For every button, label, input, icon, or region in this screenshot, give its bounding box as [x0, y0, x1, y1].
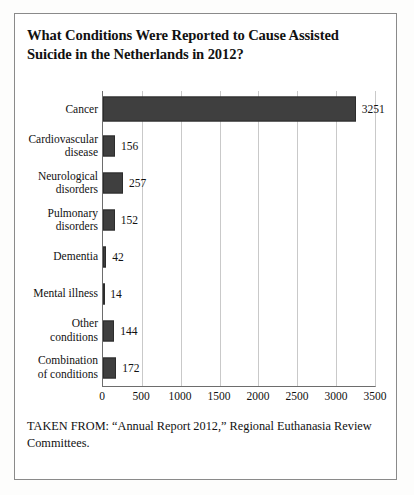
category-label: Neurologicaldisorders	[38, 170, 98, 197]
figure-page: What Conditions Were Reported to Cause A…	[0, 0, 414, 495]
bar[interactable]	[103, 173, 123, 194]
category-label-row: Neurologicaldisorders	[15, 165, 98, 202]
bar-row: 14	[103, 275, 375, 312]
category-label-row: Dementia	[15, 239, 98, 276]
figure-frame: What Conditions Were Reported to Cause A…	[14, 13, 397, 480]
bar[interactable]	[103, 320, 114, 341]
bar-value-label: 3251	[356, 103, 385, 115]
bar-chart: CancerCardiovasculardiseaseNeurologicald…	[15, 89, 396, 339]
bar[interactable]	[103, 136, 115, 157]
x-tick-label: 2000	[247, 390, 270, 402]
category-label-row: Combinationof conditions	[15, 349, 98, 386]
bar[interactable]	[103, 357, 116, 378]
category-axis-labels: CancerCardiovasculardiseaseNeurologicald…	[15, 91, 98, 386]
bar-rows: 32511562571524214144172	[103, 91, 375, 386]
plot-area: 32511562571524214144172	[102, 91, 376, 387]
category-label-line2: conditions	[50, 331, 98, 343]
category-label-line2: disorders	[56, 220, 98, 232]
bar-value-label: 14	[104, 288, 122, 300]
x-tick-label: 2500	[286, 390, 309, 402]
category-label: Cancer	[65, 103, 98, 117]
source-note: TAKEN FROM: “Annual Report 2012,” Region…	[27, 418, 383, 452]
bar-value-label: 144	[114, 325, 137, 337]
category-label: Pulmonarydisorders	[48, 207, 98, 234]
bar-row: 257	[103, 165, 375, 202]
category-label-line2: of conditions	[38, 368, 98, 380]
x-tick-label: 3500	[364, 390, 387, 402]
gridline	[375, 91, 376, 386]
bar-row: 172	[103, 349, 375, 386]
category-label-row: Cancer	[15, 91, 98, 128]
bar-value-label: 42	[106, 251, 124, 263]
category-label: Cardiovasculardisease	[28, 133, 98, 160]
category-label: Otherconditions	[50, 317, 98, 344]
bar-value-label: 156	[115, 140, 138, 152]
category-label-row: Cardiovasculardisease	[15, 128, 98, 165]
x-axis-ticks: 0500100015002000250030003500	[102, 390, 375, 408]
bar-row: 152	[103, 202, 375, 239]
bar-row: 3251	[103, 91, 375, 128]
bar-row: 156	[103, 128, 375, 165]
bar-value-label: 257	[123, 177, 146, 189]
x-tick-label: 1500	[208, 390, 231, 402]
bar[interactable]	[103, 210, 115, 231]
bar-value-label: 172	[116, 362, 139, 374]
page-title: What Conditions Were Reported to Cause A…	[27, 26, 379, 64]
category-label-row: Otherconditions	[15, 312, 98, 349]
bar-value-label: 152	[115, 214, 138, 226]
x-tick-label: 0	[99, 390, 105, 402]
bar-row: 42	[103, 239, 375, 276]
category-label-line2: disease	[65, 146, 98, 158]
x-tick-label: 1000	[169, 390, 192, 402]
category-label-row: Mental illness	[15, 275, 98, 312]
category-label: Mental illness	[33, 287, 98, 301]
category-label-line2: disorders	[56, 183, 98, 195]
category-label-row: Pulmonarydisorders	[15, 202, 98, 239]
category-label: Dementia	[53, 250, 98, 264]
x-tick-label: 500	[132, 390, 149, 402]
bar[interactable]	[103, 97, 356, 122]
category-label: Combinationof conditions	[38, 354, 98, 381]
bar-row: 144	[103, 312, 375, 349]
x-tick-label: 3000	[325, 390, 348, 402]
